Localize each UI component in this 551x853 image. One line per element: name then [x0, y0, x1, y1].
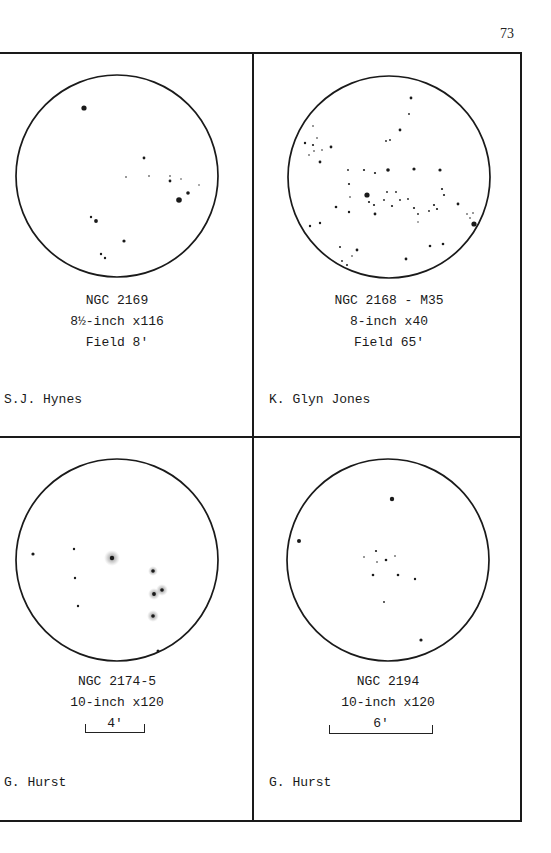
star	[386, 168, 390, 172]
star	[74, 577, 76, 579]
star	[438, 168, 441, 171]
star	[125, 176, 127, 178]
star	[383, 601, 385, 603]
star	[313, 150, 315, 152]
nebulous-star	[110, 556, 114, 560]
eyepiece-field-0	[16, 75, 218, 277]
star	[407, 198, 409, 200]
star	[363, 169, 365, 171]
star	[186, 191, 190, 195]
star	[304, 142, 306, 144]
nebulous-star	[151, 614, 155, 618]
star	[309, 225, 311, 227]
star	[399, 129, 402, 132]
star	[385, 140, 387, 142]
star	[383, 199, 385, 201]
star-field-drawings	[0, 0, 551, 853]
star	[122, 239, 125, 242]
star	[373, 204, 375, 206]
star	[31, 552, 34, 555]
star	[308, 154, 310, 156]
star	[157, 650, 160, 653]
star	[297, 539, 301, 543]
star	[374, 172, 376, 174]
star	[81, 105, 86, 110]
star	[472, 212, 474, 214]
star	[457, 203, 460, 206]
telescope-spec: 10-inch x120	[17, 693, 217, 713]
nebulous-star	[151, 569, 155, 573]
star	[429, 245, 432, 248]
star	[395, 191, 397, 193]
star	[394, 555, 396, 557]
field-circle	[16, 75, 218, 277]
star	[412, 167, 415, 170]
star	[356, 249, 359, 252]
star	[321, 149, 323, 151]
star	[436, 208, 438, 210]
star	[391, 205, 393, 207]
field-size: Field 8'	[17, 333, 217, 353]
telescope-spec: 10-inch x120	[288, 693, 488, 713]
star	[339, 246, 341, 248]
star	[312, 125, 314, 127]
star	[417, 213, 419, 215]
star	[386, 191, 388, 193]
star	[100, 253, 102, 255]
eyepiece-field-1	[288, 76, 490, 278]
telescope-spec: 8-inch x40	[289, 312, 489, 332]
observer-name: K. Glyn Jones	[269, 392, 370, 407]
star	[419, 638, 422, 641]
star	[466, 213, 468, 215]
star	[471, 221, 476, 226]
object-name: NGC 2194	[288, 672, 488, 692]
observer-name: G. Hurst	[269, 775, 331, 790]
star	[90, 216, 92, 218]
star	[368, 201, 370, 203]
star	[397, 574, 400, 577]
star	[469, 217, 471, 219]
star	[346, 264, 348, 266]
star	[348, 211, 350, 213]
star	[94, 219, 98, 223]
star	[312, 144, 314, 146]
nebulous-star	[152, 592, 156, 596]
field-size: Field 65'	[289, 333, 489, 353]
star	[443, 194, 445, 196]
star	[399, 199, 401, 201]
star	[348, 183, 350, 185]
star	[390, 497, 394, 501]
star	[376, 561, 378, 563]
observer-name: G. Hurst	[4, 775, 66, 790]
star	[364, 192, 369, 197]
star	[417, 221, 418, 222]
star	[330, 146, 333, 149]
star	[335, 206, 338, 209]
star	[414, 578, 416, 580]
star	[169, 175, 171, 177]
star	[73, 548, 75, 550]
star	[180, 178, 181, 179]
star	[408, 113, 410, 115]
star	[385, 559, 388, 562]
star	[405, 258, 408, 261]
star	[351, 255, 353, 257]
star	[442, 243, 445, 246]
scale-label: 4'	[85, 716, 145, 732]
star	[316, 137, 318, 139]
star	[441, 188, 443, 190]
eyepiece-field-3	[287, 459, 489, 661]
star	[319, 222, 321, 224]
scale-label: 6'	[329, 716, 433, 732]
field-circle	[288, 76, 490, 278]
star	[319, 161, 322, 164]
star	[428, 210, 430, 212]
star	[410, 97, 413, 100]
observer-name: S.J. Hynes	[4, 392, 82, 407]
star	[413, 207, 415, 209]
star	[104, 257, 106, 259]
star	[176, 197, 182, 203]
star	[433, 204, 435, 206]
object-name: NGC 2169	[17, 291, 217, 311]
nebulous-star	[160, 588, 164, 592]
